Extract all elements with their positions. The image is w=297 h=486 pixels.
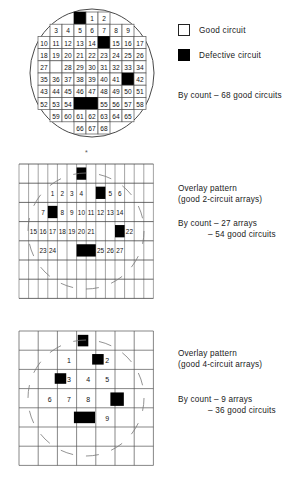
- wafer-cell-label: 41: [112, 76, 120, 83]
- overlay4-heading-line2: (good 4-circuit arrays): [178, 359, 297, 370]
- overlay4-array-label: 1: [67, 357, 71, 364]
- wafer-svg: 1234567891011121314151617181920212223242…: [27, 6, 157, 140]
- panel-wafer-map: 1234567891011121314151617181920212223242…: [0, 0, 297, 150]
- overlay2-array-label: 12: [97, 209, 105, 216]
- overlay4-array-label: 9: [105, 415, 109, 422]
- overlay2-array-label: 13: [107, 209, 115, 216]
- wafer-cell-label: 57: [124, 101, 132, 108]
- overlay2-array-label: 27: [116, 247, 124, 254]
- wafer-cell-label: 56: [112, 101, 120, 108]
- wafer-cell-label: 30: [88, 64, 96, 71]
- wafer-cell-label: 31: [100, 64, 108, 71]
- overlay2-array-label: 21: [87, 228, 95, 235]
- wafer-cell-label: 65: [124, 113, 132, 120]
- wafer-cell-label: 3: [54, 27, 58, 34]
- good-circuit-swatch-icon: [178, 24, 190, 36]
- overlay4-heading: Overlay pattern (good 4-circuit arrays): [178, 348, 297, 370]
- wafer-cell-label: 59: [52, 113, 60, 120]
- overlay4-array-label: 8: [86, 396, 90, 403]
- overlay2-cell-group: 1234567891011121314151617181920212223242…: [19, 164, 153, 298]
- overlay2-count-line2: – 54 good circuits: [178, 229, 297, 240]
- wafer-cell-label: 25: [124, 52, 132, 59]
- wafer-cell-label: 58: [136, 101, 144, 108]
- wafer-cell-label: 7: [102, 27, 106, 34]
- overlay2-grid: 1234567891011121314151617181920212223242…: [18, 163, 154, 299]
- wafer-cell-label: 53: [52, 101, 60, 108]
- overlay4-defect-block: [92, 354, 104, 365]
- wafer-cell-label: 16: [124, 40, 132, 47]
- overlay4-cell-group: 123456789: [19, 331, 153, 465]
- wafer-cell-label: 52: [40, 101, 48, 108]
- overlay4-grid: 123456789: [18, 330, 154, 466]
- wafer-cell-label: 29: [76, 64, 84, 71]
- wafer-cell-defect: [122, 73, 134, 85]
- panel-overlay-4-circuit: 123456789 Overlay pattern (good 4-circui…: [0, 318, 297, 486]
- wafer-cell-label: 54: [64, 101, 72, 108]
- overlay2-array-label: 8: [60, 209, 64, 216]
- legend-row-defective: Defective circuit: [178, 49, 297, 61]
- wafer-cell-defect: [98, 36, 110, 48]
- wafer-cell-label: 40: [100, 76, 108, 83]
- overlay2-array-label: 3: [70, 190, 74, 197]
- wafer-cell-label: 67: [88, 125, 96, 132]
- wafer-cell-label: 49: [112, 88, 120, 95]
- overlay2-defect-block: [96, 187, 106, 199]
- overlay2-heading-line2: (good 2-circuit arrays): [178, 194, 297, 205]
- overlay2-array-label: 6: [118, 190, 122, 197]
- wafer-cell-label: 1: [90, 15, 94, 22]
- wafer-cell-label: 68: [100, 125, 108, 132]
- overlay2-array-label: 7: [41, 209, 45, 216]
- wafer-cell-label: 66: [76, 125, 84, 132]
- overlay2-array-label: 20: [78, 228, 86, 235]
- wafer-cell-label: 44: [52, 88, 60, 95]
- wafer-cell-label: 35: [40, 76, 48, 83]
- overlay2-array-label: 9: [70, 209, 74, 216]
- overlay2-array-label: 11: [88, 209, 95, 216]
- overlay2-heading-line1: Overlay pattern: [178, 183, 297, 194]
- wafer-cell-label: 26: [136, 52, 144, 59]
- wafer-cell-defect: [74, 12, 86, 24]
- overlay2-array-label: 1: [51, 190, 55, 197]
- wafer-cell-label: 45: [64, 88, 72, 95]
- wafer-cell-label: 5: [78, 27, 82, 34]
- wafer-cell-label: 48: [100, 88, 108, 95]
- wafer-cell-label: 64: [112, 113, 120, 120]
- wafer-cell-label: 43: [40, 88, 48, 95]
- overlay2-array-label: 18: [59, 228, 67, 235]
- wafer-grid: 1234567891011121314151617181920212223242…: [27, 6, 157, 140]
- overlay2-array-label: 10: [78, 209, 86, 216]
- wafer-cell-label: 11: [53, 40, 60, 47]
- overlay4-count: By count – 9 arrays – 36 good circuits: [178, 394, 297, 416]
- overlay4-array-label: 7: [67, 396, 71, 403]
- center-tick-top-2: *: [85, 149, 88, 156]
- overlay4-defect-block: [55, 373, 67, 384]
- wafer-cell-label: 12: [64, 40, 72, 47]
- overlay2-array-label: 16: [39, 228, 47, 235]
- overlay2-array-label: 23: [39, 247, 47, 254]
- legend-label-good: Good circuit: [199, 26, 246, 35]
- overlay2-defect-block: [77, 244, 96, 256]
- wafer-cell-label: 13: [76, 40, 84, 47]
- wafer-cell-label: 14: [88, 40, 96, 47]
- wafer-cell-label: 22: [88, 52, 96, 59]
- wafer-cell-label: 50: [124, 88, 132, 95]
- overlay4-array-label: 4: [86, 376, 90, 383]
- wafer-cell-label: 15: [112, 40, 120, 47]
- defective-circuit-swatch-icon: [178, 49, 190, 61]
- overlay2-array-label: 24: [49, 247, 57, 254]
- wafer-cell-label: 17: [136, 40, 144, 47]
- wafer-cell-label: 20: [64, 52, 72, 59]
- overlay2-defect-block: [115, 225, 125, 237]
- wafer-cell-label: 42: [136, 76, 144, 83]
- wafer-legend: Good circuit Defective circuit: [178, 24, 297, 74]
- overlay2-array-label: 26: [107, 247, 115, 254]
- wafer-cell-label: 10: [40, 40, 48, 47]
- panel-overlay-2-circuit: * 12345678910111213141516171819202122232…: [0, 155, 297, 310]
- wafer-cell-label: 6: [90, 27, 94, 34]
- wafer-cell-label: 36: [52, 76, 60, 83]
- overlay2-svg: 1234567891011121314151617181920212223242…: [18, 163, 154, 299]
- wafer-cell-label: 23: [100, 52, 108, 59]
- wafer-cell-defect: [86, 97, 98, 109]
- overlay4-defect-block: [110, 392, 123, 405]
- overlay2-heading: Overlay pattern (good 2-circuit arrays): [178, 183, 297, 205]
